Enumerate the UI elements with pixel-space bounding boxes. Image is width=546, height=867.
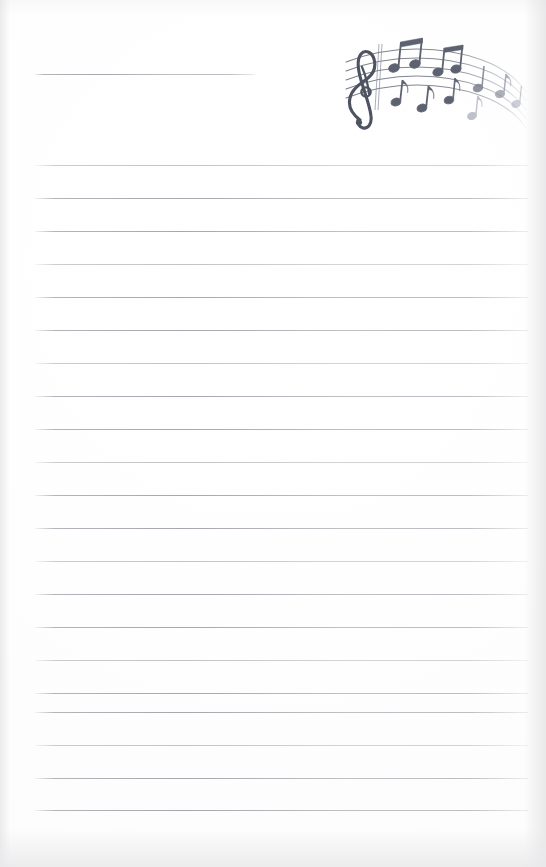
scan-edge-right xyxy=(524,0,546,867)
ruled-line xyxy=(35,495,528,496)
paper-surface xyxy=(0,0,546,867)
ruled-line xyxy=(35,660,528,661)
ruled-line-short xyxy=(35,74,255,75)
scan-edge-left xyxy=(0,0,10,867)
ruled-line xyxy=(35,165,528,166)
ruled-line xyxy=(35,198,528,199)
ruled-line xyxy=(35,712,528,713)
notepaper-page xyxy=(0,0,546,867)
ruled-line xyxy=(35,561,528,562)
ruled-line xyxy=(35,396,528,397)
scan-edge-bottom xyxy=(0,829,546,867)
ruled-line xyxy=(35,297,528,298)
ruled-line xyxy=(35,693,528,694)
ruled-line xyxy=(35,462,528,463)
ruled-line xyxy=(35,778,528,779)
music-staff-illustration xyxy=(332,28,528,130)
scan-edge-top xyxy=(0,0,546,16)
ruled-line xyxy=(35,594,528,595)
ruled-line xyxy=(35,231,528,232)
ruled-line xyxy=(35,745,528,746)
ruled-line xyxy=(35,528,528,529)
ruled-line xyxy=(35,330,528,331)
ruled-line xyxy=(35,429,528,430)
ruled-line xyxy=(35,810,528,811)
ruled-line xyxy=(35,264,528,265)
ruled-line xyxy=(35,627,528,628)
ruled-line xyxy=(35,363,528,364)
